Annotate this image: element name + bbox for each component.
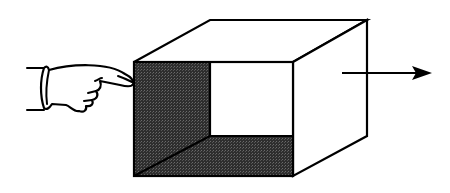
box-interior-back-wall: [210, 62, 293, 136]
pointing-hand-icon: [27, 65, 133, 111]
hand-outline: [41, 65, 133, 111]
hand-crease-3: [84, 100, 92, 101]
push-box-diagram: [0, 0, 450, 193]
